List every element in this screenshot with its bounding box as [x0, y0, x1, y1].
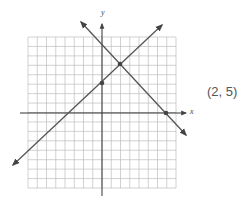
axes	[20, 24, 186, 196]
x-axis-label: x	[190, 107, 194, 116]
y-axis-label: y	[101, 8, 105, 17]
graphed-points	[100, 62, 169, 116]
x-intercept-point	[164, 111, 169, 116]
coordinate-graph	[0, 0, 242, 201]
line-increasing	[13, 25, 162, 165]
y-intercept-point	[100, 81, 105, 86]
answer-label: (2, 5)	[207, 84, 237, 99]
line-decreasing	[81, 22, 186, 135]
intersection-point	[118, 62, 123, 67]
